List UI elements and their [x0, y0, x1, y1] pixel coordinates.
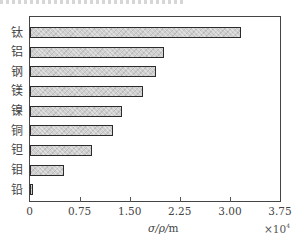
x-tick-label: 3.00	[218, 205, 241, 217]
category-label: 钼	[8, 163, 26, 177]
category-label: 铜	[8, 124, 26, 138]
bar	[30, 125, 114, 136]
bar	[30, 145, 93, 156]
bar	[30, 66, 156, 77]
x-tick-label: 3.75	[268, 205, 291, 217]
category-label: 钽	[8, 143, 26, 157]
x-axis-label: σ/ρ/m	[148, 222, 178, 234]
x-tick-label: 1.50	[118, 205, 141, 217]
x-tick-mark	[230, 197, 231, 202]
category-label: 镍	[8, 104, 26, 118]
bar	[30, 27, 241, 38]
x-tick-label: 0.75	[68, 205, 91, 217]
bar	[30, 165, 65, 176]
bar	[30, 47, 164, 58]
x-tick-label: 0	[26, 205, 33, 217]
x-tick-mark	[80, 197, 81, 202]
category-label: 钢	[8, 65, 26, 79]
bar	[30, 86, 144, 97]
x-tick-mark	[130, 197, 131, 202]
x-axis-unit: m	[168, 222, 178, 234]
category-label: 铅	[8, 183, 26, 197]
x-tick-label: 2.25	[168, 205, 191, 217]
category-label: 镁	[8, 84, 26, 98]
cropped-caption-text	[0, 0, 185, 4]
x-axis-multiplier: ×104	[264, 222, 290, 235]
category-label: 钛	[8, 26, 26, 40]
bar	[30, 184, 33, 195]
bar	[30, 106, 122, 117]
x-tick-mark	[180, 197, 181, 202]
x-axis-symbol: σ/ρ/	[148, 222, 168, 234]
category-label: 铝	[8, 45, 26, 59]
